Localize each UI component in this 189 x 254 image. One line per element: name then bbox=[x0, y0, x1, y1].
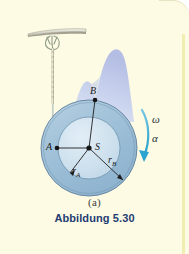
label-alpha: α bbox=[152, 133, 158, 144]
caption-block: (a) Abbildung 5.30 bbox=[0, 196, 189, 224]
label-radius-b-sub: B bbox=[112, 160, 116, 168]
label-point-s: S bbox=[95, 142, 100, 152]
point-s-marker bbox=[86, 145, 91, 150]
subfigure-label: (a) bbox=[0, 196, 189, 208]
page-corner-fold bbox=[159, 0, 189, 34]
ceiling-support-plate-icon bbox=[28, 29, 86, 37]
label-point-a: A bbox=[46, 142, 52, 152]
right-edge-stripe bbox=[182, 34, 185, 254]
label-radius-b: rB bbox=[108, 155, 116, 168]
suspension-hook-icon bbox=[46, 36, 60, 50]
figure-page: A B S rA rB ω α (a) Abbildung 5.30 bbox=[0, 0, 189, 254]
figure-caption: Abbildung 5.30 bbox=[0, 212, 189, 224]
angular-arrow-icon bbox=[139, 110, 149, 162]
point-a-marker bbox=[55, 146, 60, 151]
top-edge-highlight bbox=[0, 0, 160, 3]
label-radius-a: rA bbox=[72, 166, 80, 179]
label-omega: ω bbox=[152, 114, 160, 125]
label-point-b: B bbox=[90, 86, 96, 96]
point-b-marker bbox=[93, 98, 98, 103]
label-radius-a-sub: A bbox=[76, 171, 80, 179]
